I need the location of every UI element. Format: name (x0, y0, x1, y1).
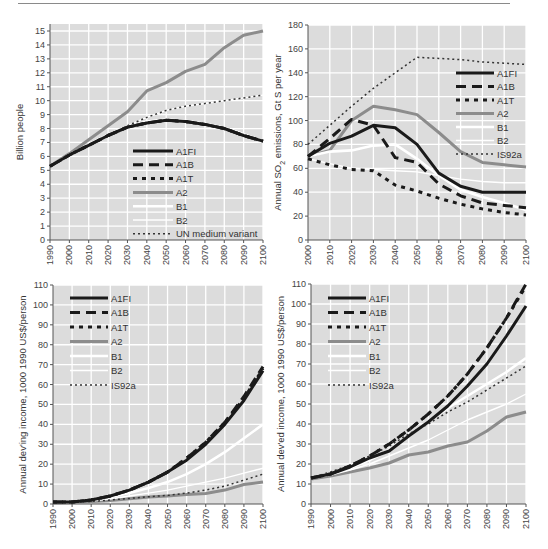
svg-text:40: 40 (296, 419, 306, 429)
svg-text:2010: 2010 (325, 245, 335, 265)
svg-text:2020: 2020 (347, 245, 357, 265)
svg-text:2050: 2050 (163, 509, 173, 529)
x-tick-labels: 1990200020102020203020402050206020702080… (45, 240, 268, 265)
legend-label: A1FI (176, 146, 196, 157)
legend-label: A1B (497, 81, 515, 92)
svg-text:2090: 2090 (239, 509, 249, 529)
svg-text:2090: 2090 (239, 245, 249, 265)
y-tick-labels: 0102030405060708090100110 (33, 280, 53, 509)
svg-text:50: 50 (296, 399, 306, 409)
legend-label: A1T (111, 322, 129, 333)
svg-text:2030: 2030 (368, 245, 378, 265)
svg-text:50: 50 (38, 399, 48, 409)
svg-text:0: 0 (40, 235, 45, 245)
svg-text:90: 90 (296, 319, 306, 329)
svg-text:110: 110 (34, 280, 48, 290)
svg-text:100: 100 (288, 116, 303, 126)
legend-label: B1 (111, 351, 123, 362)
legend-label: UN medium variant (176, 228, 258, 239)
svg-text:13: 13 (35, 54, 45, 64)
svg-text:100: 100 (291, 299, 306, 309)
svg-text:2070: 2070 (200, 245, 210, 265)
legend-label: A1T (176, 173, 194, 184)
chart-panel-so2: 0204060801001201401601802000201020202030… (272, 20, 531, 265)
legend-label: A1B (111, 307, 129, 318)
svg-text:30: 30 (38, 439, 48, 449)
svg-text:80: 80 (293, 139, 303, 149)
svg-text:2020: 2020 (105, 509, 115, 529)
svg-text:140: 140 (288, 68, 303, 78)
svg-text:2040: 2040 (404, 509, 414, 529)
svg-text:2080: 2080 (219, 245, 229, 265)
svg-text:10: 10 (296, 479, 306, 489)
y-tick-labels: 020406080100120140160180 (288, 20, 308, 245)
legend-label: A1B (176, 159, 194, 170)
svg-text:1990: 1990 (48, 509, 58, 529)
svg-text:70: 70 (38, 360, 48, 370)
svg-text:2070: 2070 (201, 509, 211, 529)
svg-text:70: 70 (296, 359, 306, 369)
svg-text:2060: 2060 (443, 509, 453, 529)
chart-panel-developing-income: 0102030405060708090100110199020002010202… (17, 280, 268, 529)
svg-text:90: 90 (38, 320, 48, 330)
svg-text:60: 60 (38, 380, 48, 390)
svg-text:2010: 2010 (84, 245, 94, 265)
x-tick-labels: 1990200020102020203020402050206020702080… (48, 504, 268, 529)
legend-label: B1 (497, 122, 509, 133)
svg-text:2050: 2050 (412, 245, 422, 265)
svg-text:180: 180 (288, 20, 303, 30)
y-tick-labels: 0102030405060708090100110 (291, 279, 311, 509)
svg-text:15: 15 (35, 26, 45, 36)
legend-label: B2 (111, 365, 123, 376)
legend-label: B2 (176, 215, 188, 226)
legend-label: IS92a (111, 380, 137, 391)
svg-text:2090: 2090 (501, 509, 511, 529)
svg-text:2100: 2100 (258, 245, 268, 265)
svg-text:80: 80 (38, 340, 48, 350)
y-axis-label: Billion people (14, 104, 25, 161)
svg-text:60: 60 (293, 163, 303, 173)
svg-text:2000: 2000 (303, 245, 313, 265)
figure-canvas: 0123456789101112131415199020002010202020… (0, 0, 548, 549)
svg-text:80: 80 (296, 339, 306, 349)
legend-label: B2 (369, 365, 381, 376)
legend-label: IS92a (369, 380, 395, 391)
legend-label: A1T (497, 95, 515, 106)
svg-text:2010: 2010 (86, 509, 96, 529)
svg-text:12: 12 (35, 68, 45, 78)
svg-text:1: 1 (40, 221, 45, 231)
legend-label: IS92a (497, 149, 523, 160)
svg-text:2030: 2030 (384, 509, 394, 529)
svg-text:2100: 2100 (521, 245, 531, 265)
legend-label: A2 (497, 108, 509, 119)
y-axis-label: Annual dev'ed income, 1000 1990 US$/pers… (275, 296, 286, 492)
svg-text:5: 5 (40, 165, 45, 175)
svg-text:2: 2 (40, 207, 45, 217)
svg-text:2100: 2100 (258, 509, 268, 529)
svg-text:2080: 2080 (477, 245, 487, 265)
legend-label: A1B (369, 307, 387, 318)
svg-text:100: 100 (33, 300, 48, 310)
svg-text:2040: 2040 (142, 245, 152, 265)
svg-text:10: 10 (38, 479, 48, 489)
x-tick-labels: 2000201020202030204020502060207020802090… (303, 240, 531, 265)
svg-text:1990: 1990 (45, 245, 55, 265)
svg-text:11: 11 (36, 82, 45, 92)
svg-text:2080: 2080 (220, 509, 230, 529)
svg-text:4: 4 (40, 179, 45, 189)
svg-text:8: 8 (40, 124, 45, 134)
chart-panel-population: 0123456789101112131415199020002010202020… (14, 24, 268, 265)
svg-text:3: 3 (40, 193, 45, 203)
svg-text:2030: 2030 (124, 509, 134, 529)
legend-label: A1FI (111, 293, 131, 304)
svg-text:2020: 2020 (103, 245, 113, 265)
svg-text:9: 9 (40, 110, 45, 120)
svg-text:1990: 1990 (306, 509, 316, 529)
legend-label: A1FI (369, 293, 389, 304)
legend-label: B1 (176, 201, 188, 212)
svg-text:20: 20 (38, 459, 48, 469)
legend-label: A1FI (497, 68, 517, 79)
svg-text:2010: 2010 (345, 509, 355, 529)
svg-text:2070: 2070 (462, 509, 472, 529)
svg-text:2060: 2060 (181, 245, 191, 265)
